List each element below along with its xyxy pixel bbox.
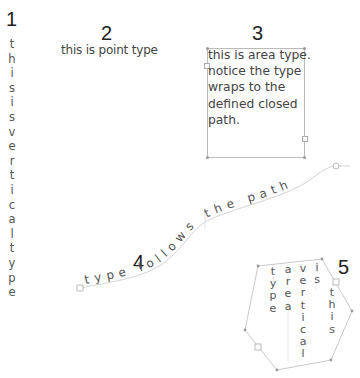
hexagon-anchor[interactable] bbox=[244, 329, 247, 332]
vertical-glyph: e bbox=[270, 303, 277, 315]
vertical-glyph: e bbox=[285, 288, 292, 300]
vertical-glyph: s bbox=[314, 274, 320, 286]
vertical-glyph: l bbox=[301, 348, 304, 360]
path-start-handle[interactable] bbox=[77, 285, 83, 291]
hexagon-anchor[interactable] bbox=[330, 359, 333, 362]
vertical-glyph: p bbox=[270, 290, 277, 302]
vertical-glyph: a bbox=[285, 301, 292, 313]
vertical-glyph: s bbox=[329, 324, 335, 336]
vertical-column-this: this bbox=[327, 287, 337, 336]
svg-text:type follows the path: type follows the path bbox=[83, 176, 295, 287]
hexagon-in-port-handle[interactable] bbox=[333, 279, 339, 285]
example-5-number: 5 bbox=[338, 256, 349, 279]
hexagon-anchor[interactable] bbox=[351, 310, 354, 313]
vertical-glyph: i bbox=[330, 311, 333, 323]
vertical-column-area: area bbox=[283, 264, 293, 313]
vertical-glyph: t bbox=[301, 300, 305, 312]
vertical-column-type: type bbox=[268, 266, 278, 315]
hexagon-anchor[interactable] bbox=[276, 369, 279, 372]
vertical-column-is: is bbox=[312, 262, 322, 286]
vertical-glyph: r bbox=[301, 287, 306, 299]
hexagon-anchor[interactable] bbox=[321, 258, 324, 261]
vertical-column-vertical: vertical bbox=[298, 263, 308, 361]
path-end-handle[interactable] bbox=[333, 163, 339, 169]
type-on-path-text: type follows the path bbox=[83, 176, 295, 287]
hexagon-anchor[interactable] bbox=[257, 265, 260, 268]
hexagon-out-port-handle[interactable] bbox=[255, 344, 261, 350]
